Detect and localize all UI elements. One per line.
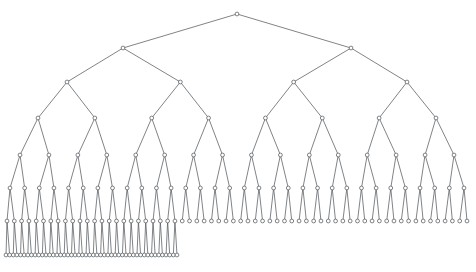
tree-edge bbox=[186, 155, 194, 188]
tree-node bbox=[155, 186, 159, 190]
tree-edge bbox=[13, 221, 14, 255]
tree-edge bbox=[280, 155, 288, 188]
tree-leaf-node bbox=[44, 253, 48, 257]
tree-edge bbox=[226, 188, 230, 221]
tree-node bbox=[144, 219, 148, 223]
tree-edge bbox=[64, 221, 65, 255]
tree-edge bbox=[379, 82, 407, 118]
tree-leaf-node bbox=[70, 253, 74, 257]
tree-node bbox=[180, 219, 184, 223]
tree-leaf-node bbox=[131, 253, 135, 257]
tree-edge bbox=[416, 188, 420, 221]
tree-node bbox=[433, 186, 437, 190]
tree-node bbox=[349, 46, 353, 50]
tree-edge bbox=[391, 155, 396, 188]
tree-node bbox=[20, 219, 24, 223]
tree-leaf-node bbox=[95, 253, 99, 257]
tree-node bbox=[85, 219, 89, 223]
tree-edge bbox=[78, 118, 95, 155]
tree-edge bbox=[36, 188, 39, 221]
tree-node bbox=[363, 219, 367, 223]
tree-edge bbox=[396, 155, 405, 188]
tree-node bbox=[301, 186, 305, 190]
tree-edge bbox=[54, 188, 58, 221]
tree-edge bbox=[332, 188, 335, 221]
tree-edge bbox=[309, 118, 322, 155]
tree-leaf-node bbox=[99, 253, 103, 257]
tree-node bbox=[239, 219, 243, 223]
tree-leaf-node bbox=[164, 253, 168, 257]
tree-edge bbox=[98, 155, 107, 188]
tree-node bbox=[100, 219, 104, 223]
tree-leaf-node bbox=[128, 253, 132, 257]
tree-leaf-node bbox=[22, 253, 26, 257]
tree-node bbox=[370, 219, 374, 223]
tree-edge bbox=[69, 188, 73, 221]
tree-edge bbox=[303, 188, 306, 221]
tree-node bbox=[5, 219, 9, 223]
tree-node bbox=[336, 153, 340, 157]
tree-edge bbox=[67, 48, 123, 82]
tree-edge bbox=[73, 221, 75, 255]
tree-edge bbox=[274, 155, 281, 188]
tree-node bbox=[111, 186, 115, 190]
tree-node bbox=[404, 186, 408, 190]
tree-edge bbox=[391, 188, 394, 221]
tree-edge bbox=[180, 82, 208, 118]
tree-edge bbox=[372, 188, 376, 221]
tree-edge bbox=[6, 221, 7, 255]
tree-node bbox=[231, 219, 235, 223]
tree-edge bbox=[401, 188, 405, 221]
tree-node bbox=[137, 219, 141, 223]
tree-edge bbox=[127, 155, 136, 188]
tree-edge bbox=[156, 188, 160, 221]
tree-edge bbox=[20, 155, 25, 188]
tree-leaf-node bbox=[139, 253, 143, 257]
tree-node bbox=[348, 219, 352, 223]
tree-leaf-node bbox=[153, 253, 157, 257]
tree-leaf-node bbox=[157, 253, 161, 257]
tree-edge bbox=[153, 221, 155, 255]
tree-leaf-node bbox=[84, 253, 88, 257]
tree-edge bbox=[124, 221, 126, 255]
tree-edge bbox=[38, 118, 49, 155]
tree-node bbox=[392, 219, 396, 223]
tree-edge bbox=[29, 221, 32, 255]
tree-leaf-node bbox=[8, 253, 12, 257]
tree-leaf-node bbox=[4, 253, 8, 257]
tree-node bbox=[36, 116, 40, 120]
tree-node bbox=[297, 219, 301, 223]
tree-leaf-node bbox=[171, 253, 175, 257]
tree-leaf-node bbox=[110, 253, 114, 257]
tree-edge bbox=[361, 188, 364, 221]
tree-leaf-node bbox=[51, 253, 55, 257]
tree-edge bbox=[251, 118, 265, 155]
tree-leaf-node bbox=[80, 253, 84, 257]
tree-node bbox=[67, 186, 71, 190]
tree-node bbox=[385, 219, 389, 223]
tree-node bbox=[27, 219, 31, 223]
tree-node bbox=[319, 219, 323, 223]
tree-edge bbox=[420, 188, 423, 221]
tree-edge bbox=[160, 221, 162, 255]
tree-node bbox=[389, 186, 393, 190]
tree-node bbox=[286, 186, 290, 190]
tree-node bbox=[64, 219, 68, 223]
tree-edge bbox=[98, 188, 102, 221]
tree-leaf-node bbox=[40, 253, 44, 257]
tree-edge bbox=[367, 118, 379, 155]
tree-leaf-node bbox=[168, 253, 172, 257]
tree-node bbox=[316, 186, 320, 190]
tree-node bbox=[150, 116, 154, 120]
tree-edge bbox=[309, 155, 317, 188]
tree-edge bbox=[405, 188, 408, 221]
tree-leaf-node bbox=[66, 253, 70, 257]
tree-leaf-node bbox=[48, 253, 52, 257]
tree-node bbox=[129, 219, 133, 223]
tree-node bbox=[151, 219, 155, 223]
tree-edge bbox=[376, 188, 379, 221]
tree-node bbox=[429, 219, 433, 223]
tree-node bbox=[272, 186, 276, 190]
tree-edge bbox=[80, 221, 82, 255]
tree-node bbox=[224, 219, 228, 223]
